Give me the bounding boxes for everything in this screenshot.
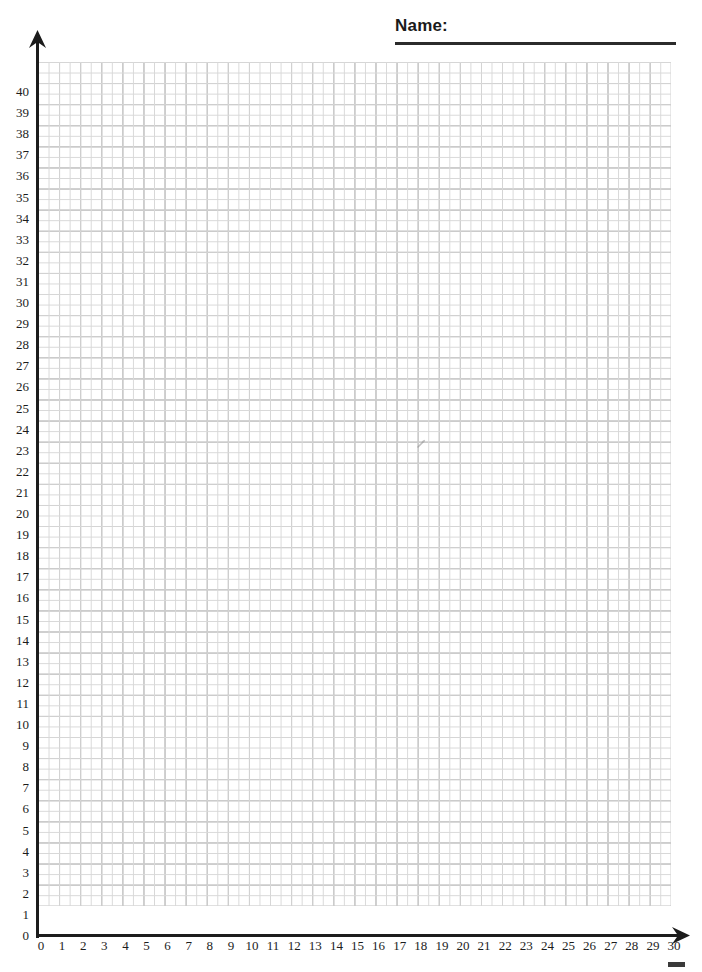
y-tick-label: 4 bbox=[0, 845, 29, 858]
y-tick-label: 15 bbox=[0, 613, 29, 626]
y-tick-label: 36 bbox=[0, 169, 29, 182]
y-axis-tick-labels: 0123456789101112131415161718192021222324… bbox=[0, 0, 33, 972]
name-label: Name: bbox=[395, 16, 448, 36]
y-tick-label: 22 bbox=[0, 465, 29, 478]
y-tick-label: 14 bbox=[0, 634, 29, 647]
coordinate-plane bbox=[38, 62, 671, 936]
y-tick-label: 6 bbox=[0, 802, 29, 815]
y-tick-label: 28 bbox=[0, 338, 29, 351]
y-tick-label: 25 bbox=[0, 402, 29, 415]
y-tick-label: 9 bbox=[0, 739, 29, 752]
x-tick-label: 30 bbox=[662, 939, 686, 954]
y-tick-label: 23 bbox=[0, 444, 29, 457]
y-tick-label: 2 bbox=[0, 887, 29, 900]
y-tick-label: 29 bbox=[0, 317, 29, 330]
y-tick-label: 33 bbox=[0, 233, 29, 246]
y-tick-label: 8 bbox=[0, 760, 29, 773]
y-tick-label: 39 bbox=[0, 106, 29, 119]
y-tick-label: 18 bbox=[0, 549, 29, 562]
y-tick-label: 37 bbox=[0, 148, 29, 161]
pencil-smudge-mark bbox=[417, 435, 427, 445]
name-write-in-line[interactable] bbox=[395, 42, 676, 45]
y-tick-label: 20 bbox=[0, 507, 29, 520]
y-tick-label: 30 bbox=[0, 296, 29, 309]
y-tick-label: 19 bbox=[0, 528, 29, 541]
y-tick-label: 5 bbox=[0, 824, 29, 837]
y-tick-label: 31 bbox=[0, 275, 29, 288]
y-tick-label: 27 bbox=[0, 359, 29, 372]
y-tick-label: 13 bbox=[0, 655, 29, 668]
y-tick-label: 17 bbox=[0, 570, 29, 583]
y-tick-label: 1 bbox=[0, 908, 29, 921]
y-tick-label: 11 bbox=[0, 697, 29, 710]
graph-paper-page: Name: 0123456789101112131415161718192021… bbox=[0, 0, 702, 972]
y-tick-label: 10 bbox=[0, 718, 29, 731]
y-tick-label: 40 bbox=[0, 85, 29, 98]
y-tick-label: 34 bbox=[0, 212, 29, 225]
y-tick-label: 24 bbox=[0, 423, 29, 436]
y-axis-line bbox=[36, 38, 39, 938]
y-tick-label: 7 bbox=[0, 781, 29, 794]
y-tick-label: 26 bbox=[0, 380, 29, 393]
y-tick-label: 3 bbox=[0, 866, 29, 879]
y-tick-label: 21 bbox=[0, 486, 29, 499]
grid-area bbox=[38, 62, 671, 906]
y-tick-label: 38 bbox=[0, 127, 29, 140]
y-tick-label: 35 bbox=[0, 191, 29, 204]
page-scan-artifact bbox=[668, 962, 685, 967]
y-tick-label: 12 bbox=[0, 676, 29, 689]
x-axis-tick-labels: 0123456789101112131415161718192021222324… bbox=[0, 939, 702, 957]
name-field[interactable]: Name: bbox=[395, 16, 676, 50]
x-axis-line bbox=[36, 934, 681, 937]
y-tick-label: 16 bbox=[0, 591, 29, 604]
y-tick-label: 32 bbox=[0, 254, 29, 267]
